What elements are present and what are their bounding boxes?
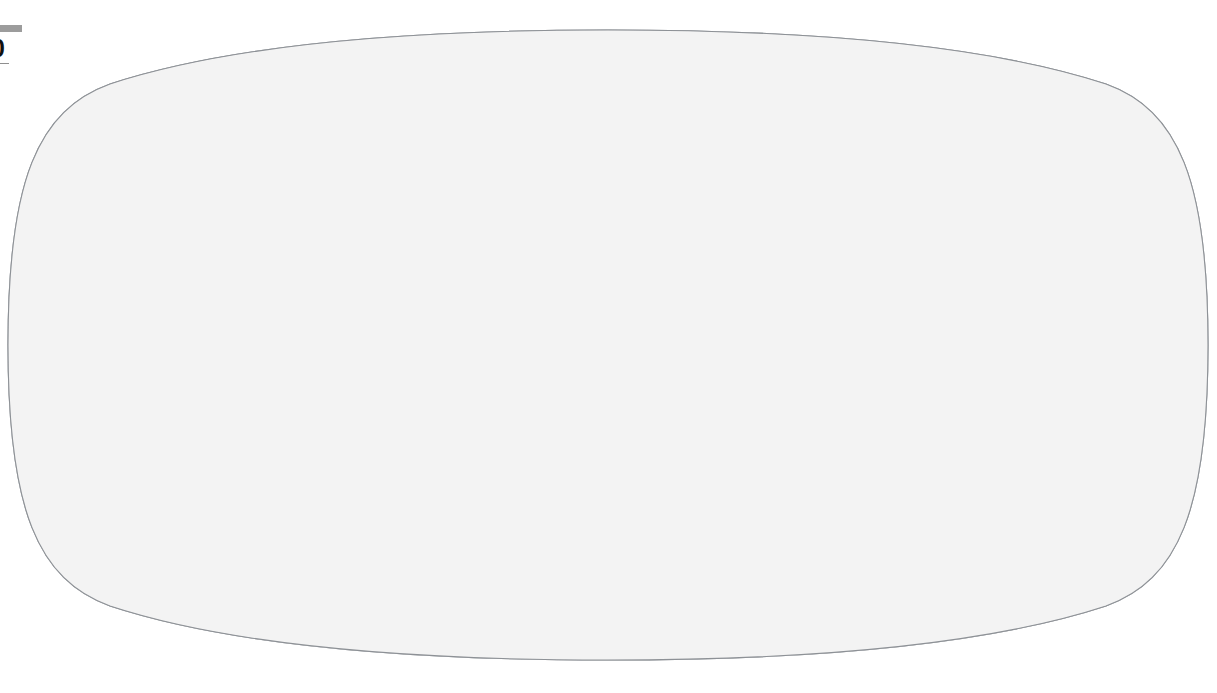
world-map[interactable] <box>0 0 1217 693</box>
page-root: 0 <box>0 0 1217 693</box>
map-outer-border <box>8 30 1208 660</box>
world-map-svg[interactable] <box>0 0 1217 693</box>
